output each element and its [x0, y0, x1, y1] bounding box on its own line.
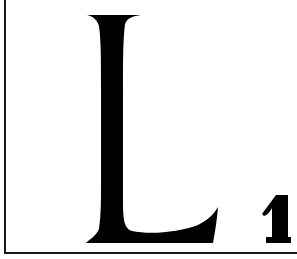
tile-artwork — [0, 0, 297, 259]
letter-l-glyph — [86, 15, 218, 243]
points-one-glyph — [262, 195, 291, 243]
